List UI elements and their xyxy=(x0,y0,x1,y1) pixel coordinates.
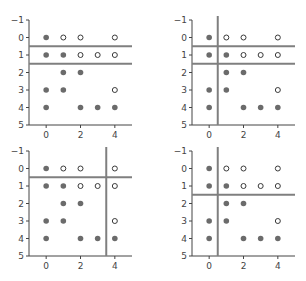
open-circle-marker xyxy=(61,35,66,40)
open-circle-marker xyxy=(275,35,280,40)
y-tick-label: 0 xyxy=(181,164,187,174)
open-circle-marker xyxy=(112,219,117,224)
filled-circle-marker xyxy=(43,87,49,93)
x-tick-label: 2 xyxy=(78,130,84,140)
filled-circle-marker xyxy=(206,166,212,172)
open-circle-marker xyxy=(95,184,100,189)
open-circle-marker xyxy=(112,166,117,171)
filled-circle-marker xyxy=(258,105,264,111)
y-tick-label: 2 xyxy=(18,199,24,209)
x-tick-label: 4 xyxy=(275,130,281,140)
y-tick-label: 2 xyxy=(18,68,24,78)
x-tick-label: 4 xyxy=(112,261,118,271)
x-tick-label: 0 xyxy=(206,130,212,140)
filled-circle-marker xyxy=(61,218,67,224)
filled-circle-marker xyxy=(206,236,212,242)
filled-circle-marker xyxy=(43,52,49,58)
open-circle-marker xyxy=(258,184,263,189)
x-tick-label: 2 xyxy=(241,130,247,140)
open-circle-marker xyxy=(78,35,83,40)
open-circle-marker xyxy=(112,53,117,58)
y-tick-label: 3 xyxy=(181,216,187,226)
filled-circle-marker xyxy=(241,70,247,76)
filled-circle-marker xyxy=(95,236,101,242)
open-circle-marker xyxy=(275,88,280,93)
open-circle-marker xyxy=(95,53,100,58)
filled-circle-marker xyxy=(43,35,49,41)
filled-circle-marker xyxy=(43,105,49,111)
filled-circle-marker xyxy=(206,35,212,41)
y-tick-label: 0 xyxy=(18,33,24,43)
filled-circle-marker xyxy=(61,201,67,207)
filled-circle-marker xyxy=(78,70,84,76)
filled-circle-marker xyxy=(112,105,118,111)
x-tick-label: 2 xyxy=(241,261,247,271)
y-tick-label: 5 xyxy=(18,251,24,261)
filled-circle-marker xyxy=(112,236,118,242)
open-circle-marker xyxy=(78,166,83,171)
open-circle-marker xyxy=(224,35,229,40)
subplot-bottom-left: −1012345024 xyxy=(11,146,132,271)
x-tick-label: 0 xyxy=(43,130,49,140)
open-circle-marker xyxy=(275,53,280,58)
open-circle-marker xyxy=(241,166,246,171)
y-tick-label: −1 xyxy=(11,15,24,25)
y-tick-label: 4 xyxy=(181,103,187,113)
open-circle-marker xyxy=(275,219,280,224)
filled-circle-marker xyxy=(206,87,212,93)
y-tick-label: 0 xyxy=(18,164,24,174)
y-tick-label: 2 xyxy=(181,68,187,78)
x-tick-label: 4 xyxy=(112,130,118,140)
subplot-top-left: −1012345024 xyxy=(11,15,132,140)
filled-circle-marker xyxy=(206,52,212,58)
y-tick-label: 1 xyxy=(181,181,187,191)
subplot-top-right: −1012345024 xyxy=(174,15,295,140)
x-tick-label: 0 xyxy=(206,261,212,271)
open-circle-marker xyxy=(241,35,246,40)
y-tick-label: −1 xyxy=(174,15,187,25)
open-circle-marker xyxy=(275,166,280,171)
open-circle-marker xyxy=(112,35,117,40)
filled-circle-marker xyxy=(78,201,84,207)
filled-circle-marker xyxy=(275,105,281,111)
x-tick-label: 2 xyxy=(78,261,84,271)
filled-circle-marker xyxy=(224,201,230,207)
filled-circle-marker xyxy=(241,236,247,242)
y-tick-label: −1 xyxy=(174,146,187,156)
y-tick-label: 4 xyxy=(18,103,24,113)
open-circle-marker xyxy=(78,53,83,58)
filled-circle-marker xyxy=(61,183,67,189)
y-tick-label: 2 xyxy=(181,199,187,209)
subplot-bottom-right: −1012345024 xyxy=(174,146,295,271)
y-tick-label: 1 xyxy=(18,50,24,60)
filled-circle-marker xyxy=(241,105,247,111)
filled-circle-marker xyxy=(78,236,84,242)
y-tick-label: 4 xyxy=(18,234,24,244)
open-circle-marker xyxy=(275,184,280,189)
y-tick-label: 4 xyxy=(181,234,187,244)
filled-circle-marker xyxy=(224,183,230,189)
y-tick-label: −1 xyxy=(11,146,24,156)
x-tick-label: 4 xyxy=(275,261,281,271)
open-circle-marker xyxy=(61,166,66,171)
filled-circle-marker xyxy=(95,105,101,111)
filled-circle-marker xyxy=(43,183,49,189)
open-circle-marker xyxy=(224,166,229,171)
open-circle-marker xyxy=(112,184,117,189)
y-tick-label: 1 xyxy=(181,50,187,60)
y-tick-label: 1 xyxy=(18,181,24,191)
y-tick-label: 3 xyxy=(18,85,24,95)
x-tick-label: 0 xyxy=(43,261,49,271)
y-tick-label: 5 xyxy=(181,120,187,130)
filled-circle-marker xyxy=(224,218,230,224)
filled-circle-marker xyxy=(206,105,212,111)
filled-circle-marker xyxy=(61,52,67,58)
y-tick-label: 3 xyxy=(181,85,187,95)
filled-circle-marker xyxy=(224,52,230,58)
filled-circle-marker xyxy=(224,87,230,93)
filled-circle-marker xyxy=(61,87,67,93)
filled-circle-marker xyxy=(43,218,49,224)
open-circle-marker xyxy=(241,53,246,58)
open-circle-marker xyxy=(112,88,117,93)
filled-circle-marker xyxy=(43,166,49,172)
